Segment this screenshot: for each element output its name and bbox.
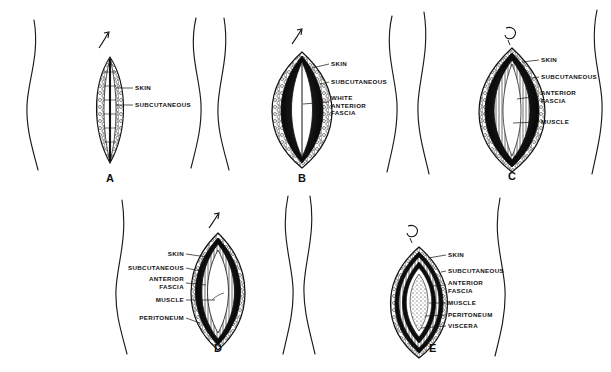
label-subcutaneous: SUBCUTANEOUS: [448, 267, 504, 274]
label-subcutaneous: SUBCUTANEOUS: [541, 73, 597, 80]
label-subcutaneous: SUBCUTANEOUS: [135, 101, 191, 108]
label-skin: SKIN: [541, 56, 557, 63]
panel-letter-d: D: [214, 342, 222, 354]
label-muscle: MUSCLE: [156, 296, 184, 303]
surgical-incision-layers-figure: SKIN SUBCUTANEOUS A SKIN SUBCUTANEOUS WH…: [0, 0, 611, 372]
panel-letter-a: A: [106, 172, 114, 184]
label-skin: SKIN: [331, 60, 347, 67]
label-subcutaneous: SUBCUTANEOUS: [331, 78, 387, 85]
label-skin: SKIN: [448, 251, 464, 258]
label-subcutaneous: SUBCUTANEOUS: [128, 264, 184, 271]
label-skin: SKIN: [135, 84, 151, 91]
label-muscle: MUSCLE: [541, 118, 569, 125]
panel-letter-b: B: [298, 172, 306, 184]
label-muscle: MUSCLE: [448, 299, 476, 306]
label-viscera: VISCERA: [448, 322, 478, 329]
panel-letter-e: E: [429, 342, 436, 354]
label-peritoneum: PERITONEUM: [448, 311, 493, 318]
panel-letter-c: C: [508, 170, 516, 182]
label-peritoneum: PERITONEUM: [139, 314, 184, 321]
label-skin: SKIN: [168, 250, 184, 257]
